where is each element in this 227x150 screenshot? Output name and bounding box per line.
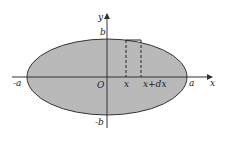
ellipse-diagram: y x O b -b -a a x x+dx	[0, 0, 227, 150]
x-axis-label: x	[210, 78, 215, 88]
b-bottom-label: -b	[95, 117, 104, 127]
origin-label: O	[97, 80, 105, 90]
a-left-label: -a	[13, 78, 21, 88]
a-right-label: a	[189, 78, 194, 88]
y-axis-label: y	[97, 12, 104, 22]
strip-x-dx-label: x+dx	[143, 79, 166, 89]
b-top-label: b	[100, 27, 106, 37]
strip-x-label: x	[124, 79, 129, 89]
